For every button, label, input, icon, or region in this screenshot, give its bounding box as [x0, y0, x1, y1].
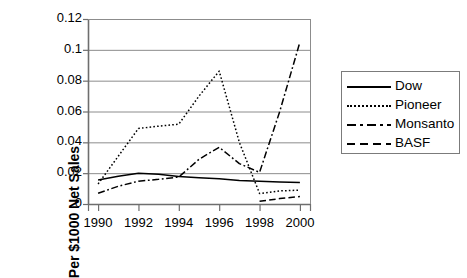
legend-item-basf[interactable]: BASF	[342, 134, 461, 154]
legend-label-dow: Dow	[395, 78, 422, 93]
series-line-basf	[260, 197, 300, 202]
legend-item-monsanto[interactable]: Monsanto	[342, 115, 461, 135]
series-line-dow	[98, 173, 300, 182]
legend-item-pioneer[interactable]: Pioneer	[342, 96, 461, 116]
legend-label-basf: BASF	[395, 135, 430, 150]
legend-swatch-monsanto	[347, 124, 391, 126]
legend-item-dow[interactable]: Dow	[342, 77, 461, 97]
legend-label-monsanto: Monsanto	[395, 116, 454, 131]
legend-swatch-basf	[347, 143, 391, 145]
legend-swatch-dow	[347, 86, 391, 90]
legend: DowPioneerMonsantoBASF	[341, 71, 460, 154]
legend-swatch-pioneer	[347, 105, 391, 109]
series-line-monsanto	[98, 42, 300, 193]
legend-label-pioneer: Pioneer	[395, 97, 442, 112]
